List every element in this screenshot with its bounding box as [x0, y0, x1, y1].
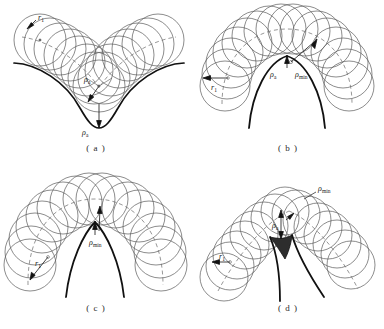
cutter-circles-d-left [200, 187, 309, 301]
construction-points-b [227, 60, 293, 79]
caption-d: ( d ) [192, 303, 384, 313]
label-rho-min-b: ρmin [295, 71, 307, 79]
caption-a: ( a ) [0, 143, 192, 153]
panel-b: ρa ρmin r1 ( b ) [192, 0, 384, 164]
label-rho-min-d: ρmin [318, 185, 330, 193]
cutter-circles-a [14, 14, 184, 112]
label-rho-a-bottom: ρa [82, 129, 88, 137]
label-rho-min-c: ρmin [89, 239, 101, 247]
panel-a: ρa ρa r1 ( a ) [0, 0, 192, 164]
label-r1-d: r1 [219, 253, 225, 261]
label-r1-c: r1 [35, 260, 41, 268]
label-rho-a-d: ρa [272, 222, 278, 230]
caption-b: ( b ) [192, 143, 384, 153]
panel-c: ρmin r1 ( c ) [0, 165, 192, 329]
label-rho-a-b: ρa [270, 71, 276, 79]
dimension-arrows-a [27, 20, 101, 128]
panel-a-drawing [0, 0, 192, 164]
figure-four-panel-envelope-geometry: ρa ρa r1 ( a ) [0, 0, 384, 329]
caption-c: ( c ) [0, 303, 192, 313]
panel-d: ρmin ρa r1 ( d ) [192, 165, 384, 329]
label-rho-a-center: ρa [84, 76, 90, 84]
label-r1-b: r1 [211, 84, 217, 92]
label-r1-a: r1 [38, 14, 44, 22]
panel-b-drawing [192, 0, 384, 164]
